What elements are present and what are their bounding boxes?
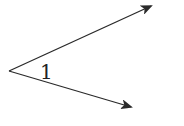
lower-ray — [9, 71, 131, 107]
upper-ray — [9, 6, 151, 71]
angle-label: 1 — [40, 60, 53, 84]
angle-diagram: 1 — [0, 0, 184, 126]
